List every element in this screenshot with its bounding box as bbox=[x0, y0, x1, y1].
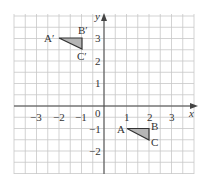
y-axis-label: y bbox=[94, 10, 100, 22]
x-tick: −3 bbox=[30, 111, 42, 123]
x-tick: −2 bbox=[53, 111, 65, 123]
vertex-label-c: C bbox=[151, 136, 158, 148]
origin-label: 0 bbox=[95, 107, 101, 119]
vertex-label-a-prime: A′ bbox=[44, 32, 54, 44]
vertex-label-b-prime: B′ bbox=[78, 24, 88, 36]
y-tick: 2 bbox=[95, 55, 101, 67]
vertex-label-b: B bbox=[151, 120, 158, 132]
vertex-label-c-prime: C′ bbox=[77, 50, 87, 62]
x-axis-label: x bbox=[188, 107, 194, 119]
y-tick: −1 bbox=[89, 123, 101, 135]
y-tick: 3 bbox=[95, 32, 101, 44]
x-tick: 3 bbox=[169, 111, 175, 123]
triangle-a-prime-b-prime-c-prime: A′ B′ C′ bbox=[44, 24, 88, 62]
y-tick: 1 bbox=[95, 77, 101, 89]
x-tick: 1 bbox=[124, 111, 130, 123]
vertex-label-a: A bbox=[117, 123, 125, 135]
coordinate-plane: x y 0 −3 −2 −1 1 2 3 3 2 1 −1 −2 A B C A… bbox=[0, 0, 204, 180]
y-axis-arrow-icon bbox=[101, 13, 107, 21]
x-tick: −1 bbox=[75, 111, 87, 123]
y-tick: −2 bbox=[89, 145, 101, 157]
axes: x y 0 bbox=[14, 10, 198, 174]
